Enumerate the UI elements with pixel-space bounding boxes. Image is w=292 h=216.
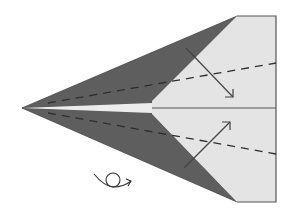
- origami-diagram: [0, 0, 292, 216]
- turn-over-icon: [94, 173, 131, 187]
